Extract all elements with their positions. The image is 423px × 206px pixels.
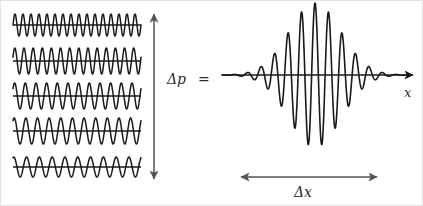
figure-canvas: [1, 1, 423, 206]
plane-wave-3: [13, 83, 141, 109]
plane-wave-1: [13, 14, 141, 36]
delta-p-label: Δp: [167, 71, 186, 87]
plane-wave-5: [13, 157, 141, 177]
plane-wave-2: [13, 48, 141, 74]
plane-wave-4: [13, 118, 141, 144]
wave-packet-path: [222, 3, 405, 145]
plane-wave-stack: [13, 14, 141, 177]
equals-sign-label: =: [198, 71, 210, 87]
x-axis-label: x: [404, 85, 411, 100]
wave-packet-curve: [222, 3, 405, 145]
uncertainty-principle-figure: Δp = x Δx: [0, 0, 423, 206]
delta-x-label: Δx: [294, 184, 312, 200]
